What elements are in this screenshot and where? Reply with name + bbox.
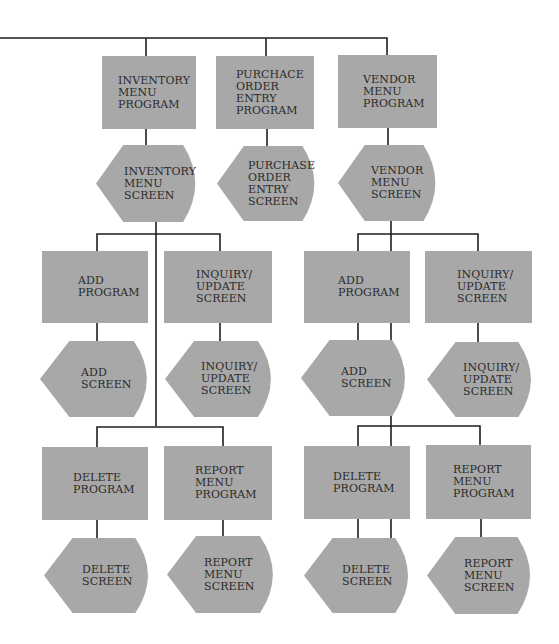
inventory-menu-screen-display-shape: INVENTORYMENUSCREEN (96, 145, 201, 222)
label-line: SCREEN (124, 190, 196, 202)
report-menu-program-left-box: REPORTMENUPROGRAM (164, 446, 272, 520)
add-program-right-label: ADDPROGRAM (338, 251, 400, 323)
add-screen-left-label: ADDSCREEN (81, 341, 132, 417)
label-line: INVENTORY (118, 75, 190, 87)
vendor-menu-program-box: VENDORMENUPROGRAM (338, 55, 437, 128)
vendor-menu-screen-display-shape: VENDORMENUSCREEN (338, 145, 441, 221)
label-line: DELETE (333, 471, 395, 483)
add-program-left-box: ADDPROGRAM (42, 251, 148, 323)
label-line: SCREEN (196, 293, 252, 305)
label-line: DELETE (342, 564, 393, 576)
inquiry-update-right-box: INQUIRY/UPDATESCREEN (425, 251, 532, 323)
label-line: ORDER (236, 81, 304, 93)
report-menu-screen-right-label: REPORTMENUSCREEN (464, 537, 515, 614)
label-line: PROGRAM (78, 287, 140, 299)
label-line: PROGRAM (236, 105, 304, 117)
label-line: PURCHASE (248, 160, 315, 172)
add-screen-right-label: ADDSCREEN (341, 340, 392, 416)
label-line: PROGRAM (338, 287, 400, 299)
label-line: SCREEN (82, 576, 133, 588)
label-line: MENU (118, 87, 190, 99)
inquiry-update-left-label: INQUIRY/UPDATESCREEN (196, 251, 252, 323)
report-menu-program-right-box: REPORTMENUPROGRAM (426, 445, 531, 519)
label-line: UPDATE (463, 374, 519, 386)
label-line: PROGRAM (195, 489, 257, 501)
label-line: DELETE (73, 472, 135, 484)
inquiry-update-screen-right-label: INQUIRY/UPDATESCREEN (463, 342, 519, 417)
label-line: REPORT (464, 558, 515, 570)
add-program-right-box: ADDPROGRAM (304, 251, 410, 323)
report-menu-program-right-label: REPORTMENUPROGRAM (453, 445, 515, 519)
delete-program-right-box: DELETEPROGRAM (304, 446, 410, 519)
report-menu-screen-left-display-shape: REPORTMENUSCREEN (167, 536, 279, 613)
label-line: SCREEN (81, 379, 132, 391)
label-line: ORDER (248, 172, 315, 184)
delete-program-left-label: DELETEPROGRAM (73, 447, 135, 520)
label-line: INQUIRY/ (463, 362, 519, 374)
inventory-menu-screen-label: INVENTORYMENUSCREEN (124, 145, 196, 222)
purchase-order-entry-program-box: PURCHACEORDERENTRYPROGRAM (216, 56, 314, 129)
label-line: MENU (204, 569, 255, 581)
label-line: PURCHACE (236, 69, 304, 81)
label-line: SCREEN (341, 378, 392, 390)
add-program-left-label: ADDPROGRAM (78, 251, 140, 323)
inventory-menu-program-box: INVENTORYMENUPROGRAM (102, 56, 196, 129)
report-menu-program-left-label: REPORTMENUPROGRAM (195, 446, 257, 520)
connector-line (0, 38, 387, 56)
delete-screen-right-label: DELETESCREEN (342, 538, 393, 613)
label-line: SCREEN (248, 196, 315, 208)
purchase-order-entry-screen-label: PURCHASEORDERENTRYSCREEN (248, 146, 315, 221)
delete-screen-left-display-shape: DELETESCREEN (44, 538, 154, 613)
label-line: DELETE (82, 564, 133, 576)
inquiry-update-screen-left-label: INQUIRY/UPDATESCREEN (201, 341, 257, 417)
label-line: MENU (464, 570, 515, 582)
label-line: PROGRAM (118, 99, 190, 111)
vendor-menu-screen-label: VENDORMENUSCREEN (371, 145, 423, 221)
connector-line (97, 234, 220, 251)
delete-screen-right-display-shape: DELETESCREEN (304, 538, 414, 613)
label-line: REPORT (204, 557, 255, 569)
label-line: SCREEN (463, 386, 519, 398)
label-line: PROGRAM (73, 484, 135, 496)
add-screen-right-display-shape: ADDSCREEN (301, 340, 411, 416)
delete-screen-left-label: DELETESCREEN (82, 538, 133, 613)
inquiry-update-screen-right-display-shape: INQUIRY/UPDATESCREEN (427, 342, 537, 417)
vendor-menu-program-label: VENDORMENUPROGRAM (363, 55, 425, 128)
label-line: MENU (363, 86, 425, 98)
label-line: SCREEN (204, 581, 255, 593)
hierarchy-chart: INVENTORYMENUPROGRAMPURCHACEORDERENTRYPR… (0, 0, 559, 644)
connector-line (97, 427, 223, 447)
label-line: PROGRAM (453, 488, 515, 500)
label-line: PROGRAM (363, 98, 425, 110)
connector-line (358, 426, 480, 446)
inquiry-update-right-label: INQUIRY/UPDATESCREEN (457, 251, 513, 323)
inquiry-update-screen-left-display-shape: INQUIRY/UPDATESCREEN (165, 341, 277, 417)
connector-line (358, 234, 478, 251)
label-line: SCREEN (342, 576, 393, 588)
inquiry-update-left-box: INQUIRY/UPDATESCREEN (164, 251, 272, 323)
label-line: SCREEN (371, 189, 423, 201)
label-line: SCREEN (457, 293, 513, 305)
inventory-menu-program-label: INVENTORYMENUPROGRAM (118, 56, 190, 129)
purchase-order-entry-screen-display-shape: PURCHASEORDERENTRYSCREEN (217, 146, 320, 221)
label-line: INVENTORY (124, 166, 196, 178)
delete-program-right-label: DELETEPROGRAM (333, 446, 395, 519)
label-line: ENTRY (248, 184, 315, 196)
label-line: VENDOR (363, 74, 425, 86)
report-menu-screen-right-display-shape: REPORTMENUSCREEN (427, 537, 536, 614)
label-line: SCREEN (201, 385, 257, 397)
delete-program-left-box: DELETEPROGRAM (42, 447, 148, 520)
label-line: ENTRY (236, 93, 304, 105)
purchase-order-entry-program-label: PURCHACEORDERENTRYPROGRAM (236, 56, 304, 129)
label-line: PROGRAM (333, 483, 395, 495)
add-screen-left-display-shape: ADDSCREEN (40, 341, 153, 417)
label-line: SCREEN (464, 582, 515, 594)
report-menu-screen-left-label: REPORTMENUSCREEN (204, 536, 255, 613)
label-line: MENU (124, 178, 196, 190)
